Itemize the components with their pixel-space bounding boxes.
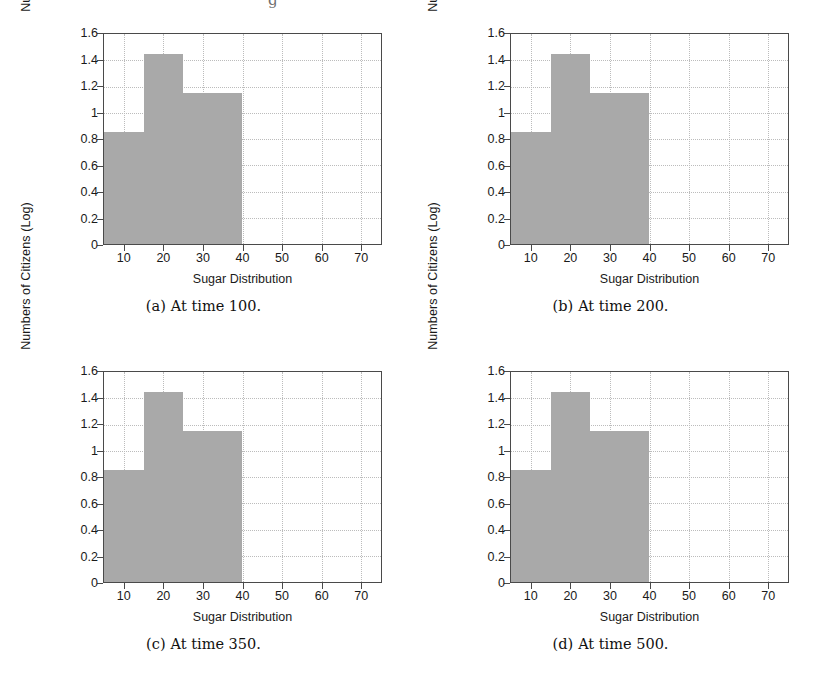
vertical-gridline <box>689 372 690 582</box>
vertical-gridline <box>243 372 244 582</box>
figure-panel: Numbers of Citizens (Log)00.20.40.60.811… <box>407 0 814 338</box>
histogram-bar <box>104 470 144 582</box>
x-tick-label: 10 <box>117 250 131 266</box>
y-axis-ticks: 00.20.40.60.811.21.41.6 <box>459 364 505 578</box>
x-axis-label: Sugar Distribution <box>510 272 789 286</box>
plot-area <box>103 371 382 583</box>
x-tick-label: 20 <box>156 250 170 266</box>
panel-caption-text: At time 200. <box>578 298 668 314</box>
vertical-gridline <box>729 34 730 244</box>
x-tick-label: 30 <box>603 250 617 266</box>
x-tick-label: 20 <box>563 588 577 604</box>
x-axis-ticks: 10203040506070 <box>510 588 789 604</box>
y-tick-label: 0.4 <box>81 185 98 199</box>
x-tick-label: 10 <box>117 588 131 604</box>
y-tick-label: 0.8 <box>81 132 98 146</box>
y-axis-label: Numbers of Citizens (Log) <box>425 168 441 384</box>
histogram-chart: Numbers of Citizens (Log)00.20.40.60.811… <box>407 338 814 628</box>
x-tick-label: 20 <box>156 588 170 604</box>
vertical-gridline <box>361 34 362 244</box>
histogram-chart: Numbers of Citizens (Log)00.20.40.60.811… <box>407 0 814 290</box>
vertical-gridline <box>650 34 651 244</box>
y-tick-label: 1 <box>498 106 505 120</box>
x-tick-label: 60 <box>722 250 736 266</box>
panel-caption-tag: (c) <box>146 636 165 652</box>
x-axis-ticks: 10203040506070 <box>510 250 789 266</box>
y-tick-label: 1 <box>91 106 98 120</box>
x-tick-label: 50 <box>682 250 696 266</box>
vertical-gridline <box>689 34 690 244</box>
y-tick-label: 1.6 <box>81 26 98 40</box>
x-tick-label: 30 <box>196 250 210 266</box>
y-tick-label: 1 <box>91 444 98 458</box>
y-axis-label: Numbers of Citizens (Log) <box>18 168 34 384</box>
y-tick-label: 1.2 <box>488 417 505 431</box>
x-tick-label: 10 <box>524 250 538 266</box>
y-tick-label: 0.2 <box>488 212 505 226</box>
y-tick-label: 0.4 <box>81 523 98 537</box>
y-tick-label: 1.6 <box>488 364 505 378</box>
y-tick-label: 0.2 <box>81 212 98 226</box>
y-axis-label: Numbers of Citizens (Log) <box>425 0 441 46</box>
y-axis-label: Numbers of Citizens (Log) <box>18 0 34 46</box>
y-tick-label: 1.2 <box>81 79 98 93</box>
panel-caption-text: At time 350. <box>171 636 261 652</box>
histogram-bar <box>104 132 144 244</box>
x-tick-label: 60 <box>722 588 736 604</box>
figure-panel-grid: Numbers of Citizens (Log)00.20.40.60.811… <box>0 0 814 676</box>
histogram-bar <box>590 93 649 244</box>
panel-caption: (c)At time 350. <box>0 636 407 652</box>
vertical-gridline <box>282 34 283 244</box>
figure-panel: Numbers of Citizens (Log)00.20.40.60.811… <box>0 338 407 676</box>
y-tick-label: 1.4 <box>81 391 98 405</box>
histogram-bar <box>511 132 551 244</box>
histogram-bar <box>551 54 591 244</box>
y-tick-label: 1.4 <box>488 391 505 405</box>
vertical-gridline <box>282 372 283 582</box>
vertical-gridline <box>768 372 769 582</box>
y-tick-label: 0.2 <box>488 550 505 564</box>
vertical-gridline <box>322 372 323 582</box>
x-tick-label: 70 <box>761 588 775 604</box>
figure-panel: Numbers of Citizens (Log)00.20.40.60.811… <box>407 338 814 676</box>
y-tick-label: 1.2 <box>81 417 98 431</box>
vertical-gridline <box>729 372 730 582</box>
panel-caption-text: At time 100. <box>171 298 261 314</box>
x-tick-label: 40 <box>643 588 657 604</box>
panel-caption: (b)At time 200. <box>407 298 814 314</box>
y-tick-label: 0 <box>91 576 98 590</box>
y-tick-label: 0.8 <box>488 132 505 146</box>
panel-caption: (a)At time 100. <box>0 298 407 314</box>
vertical-gridline <box>361 372 362 582</box>
histogram-bar <box>183 93 242 244</box>
histogram-bar <box>511 470 551 582</box>
x-tick-label: 60 <box>315 250 329 266</box>
panel-caption-tag: (a) <box>146 298 166 314</box>
x-tick-label: 70 <box>354 588 368 604</box>
x-axis-ticks: 10203040506070 <box>103 250 382 266</box>
y-tick-label: 0.4 <box>488 185 505 199</box>
y-tick-label: 0.6 <box>488 497 505 511</box>
x-tick-label: 40 <box>643 250 657 266</box>
x-tick-label: 50 <box>275 250 289 266</box>
x-tick-label: 50 <box>275 588 289 604</box>
x-axis-label: Sugar Distribution <box>103 610 382 624</box>
y-tick-label: 1.2 <box>488 79 505 93</box>
x-tick-label: 70 <box>761 250 775 266</box>
y-tick-label: 1.4 <box>488 53 505 67</box>
vertical-gridline <box>768 34 769 244</box>
x-axis-ticks: 10203040506070 <box>103 588 382 604</box>
y-tick-label: 0.2 <box>81 550 98 564</box>
vertical-gridline <box>322 34 323 244</box>
y-tick-label: 0.6 <box>488 159 505 173</box>
y-tick-label: 1.6 <box>81 364 98 378</box>
y-tick-label: 0.8 <box>81 470 98 484</box>
y-axis-ticks: 00.20.40.60.811.21.41.6 <box>459 26 505 240</box>
plot-area <box>510 33 789 245</box>
x-tick-label: 60 <box>315 588 329 604</box>
y-tick-label: 1.4 <box>81 53 98 67</box>
y-axis-ticks: 00.20.40.60.811.21.41.6 <box>52 26 98 240</box>
x-axis-label: Sugar Distribution <box>510 610 789 624</box>
histogram-bar <box>144 392 184 582</box>
x-tick-label: 10 <box>524 588 538 604</box>
